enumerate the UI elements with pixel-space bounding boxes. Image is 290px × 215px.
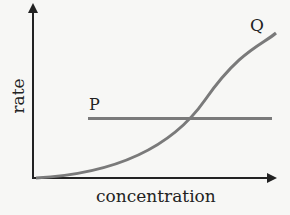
chart-plot: [0, 0, 290, 215]
y-axis-label: rate: [8, 76, 28, 116]
x-axis-label: concentration: [96, 186, 216, 206]
curve-q: [36, 33, 276, 178]
line-p-label: P: [89, 95, 100, 114]
curve-q-label: Q: [250, 15, 264, 35]
chart: rate concentration P Q: [0, 0, 290, 215]
